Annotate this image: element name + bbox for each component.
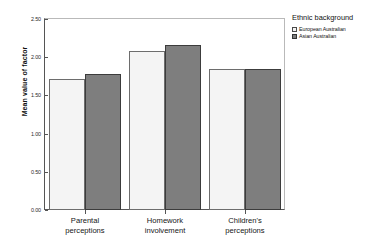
x-axis-label-line: Children's: [228, 216, 262, 225]
bar-group: [129, 19, 201, 210]
legend-item-european-australian[interactable]: European Australian: [292, 26, 382, 32]
x-axis-label-line: Parental: [71, 216, 99, 225]
legend-swatch-icon: [292, 27, 297, 32]
y-axis-tick-label: 1.50: [31, 92, 45, 98]
legend-title: Ethnic background: [292, 13, 382, 22]
legend-item-label: European Australian: [299, 26, 346, 32]
x-axis-label-line: perceptions: [190, 226, 300, 236]
y-axis-title: Mean value of factor: [21, 22, 28, 142]
bar[interactable]: [129, 51, 165, 210]
bar-group: [209, 19, 281, 210]
bar[interactable]: [245, 69, 281, 210]
bar[interactable]: [165, 45, 201, 210]
x-axis-tick: [85, 210, 86, 214]
legend-item-label: Asian Australian: [299, 33, 336, 39]
x-axis-label: Children'sperceptions: [190, 216, 300, 236]
bar[interactable]: [209, 69, 245, 210]
x-axis-tick: [165, 210, 166, 214]
y-axis-tick-label: 2.50: [31, 16, 45, 22]
x-axis-label-line: Homework: [147, 216, 183, 225]
plot-area: 0.000.501.001.502.002.50: [45, 19, 285, 210]
y-axis-tick-label: 1.00: [31, 131, 45, 137]
bar[interactable]: [49, 79, 85, 210]
legend-item-asian-australian[interactable]: Asian Australian: [292, 33, 382, 39]
x-axis-tick: [245, 210, 246, 214]
bar-group: [49, 19, 121, 210]
y-axis-tick-label: 0.50: [31, 169, 45, 175]
chart-legend: Ethnic background European Australian As…: [292, 13, 382, 40]
legend-swatch-icon: [292, 34, 297, 39]
y-axis-tick-label: 0.00: [31, 207, 45, 213]
bar-chart: Mean value of factor 0.000.501.001.502.0…: [0, 0, 382, 248]
bar[interactable]: [85, 74, 121, 210]
y-axis-tick-label: 2.00: [31, 54, 45, 60]
